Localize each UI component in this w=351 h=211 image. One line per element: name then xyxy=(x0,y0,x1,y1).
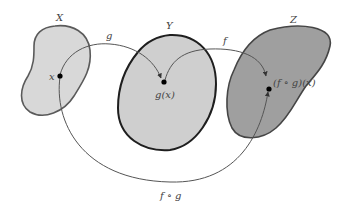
point-fgx-label: (f ∘ g)(x) xyxy=(273,77,316,88)
point-fgx xyxy=(266,86,271,91)
arrow-f-label: f xyxy=(222,35,229,46)
point-gx-label: g(x) xyxy=(155,89,175,100)
set-x-label: X xyxy=(55,12,64,23)
point-x-label: x xyxy=(49,71,55,82)
set-x-region xyxy=(22,26,91,115)
point-x xyxy=(57,73,62,78)
function-composition-diagram: X Y Z g f f ∘ g x g(x) (f ∘ g)(x) xyxy=(0,0,351,211)
arrow-g-label: g xyxy=(106,30,112,41)
arrow-f-compose-g-label: f ∘ g xyxy=(159,190,181,201)
point-gx xyxy=(161,79,166,84)
set-y-label: Y xyxy=(166,20,174,31)
set-z-label: Z xyxy=(289,14,298,25)
